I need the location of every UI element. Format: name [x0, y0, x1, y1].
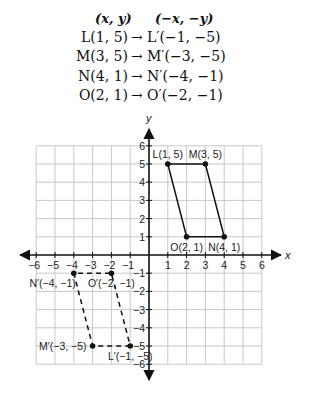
vertex-label: M′(−3, −5) — [39, 340, 87, 352]
y-tick-label: 3 — [139, 194, 145, 206]
vertex-label: M(3, 5) — [189, 148, 222, 160]
x-tick-label: 2 — [184, 259, 190, 271]
vertex-point — [221, 234, 227, 240]
vertex-point — [90, 343, 96, 349]
x-tick-label: −2 — [103, 259, 115, 271]
y-tick-label: 4 — [139, 176, 145, 188]
y-tick-label: 6 — [139, 140, 145, 152]
y-tick-label: 5 — [139, 158, 145, 170]
vertex-point — [127, 343, 133, 349]
x-tick-label: 1 — [165, 259, 171, 271]
y-tick-label: −3 — [133, 304, 145, 316]
y-tick-label: 2 — [139, 213, 145, 225]
vertex-label: N′(−4, −1) — [29, 277, 75, 289]
x-tick-label: −4 — [66, 259, 78, 271]
coordinate-plane: −6−5−4−3−2−1123456−6−5−4−3−2−1123456 L(1… — [0, 0, 309, 393]
vertex-point — [165, 161, 171, 167]
x-axis-label: x — [284, 249, 291, 261]
vertex-point — [203, 161, 209, 167]
x-tick-label: 6 — [259, 259, 265, 271]
x-tick-label: −6 — [28, 259, 40, 271]
vertex-label: L(1, 5) — [153, 148, 183, 160]
y-tick-label: 1 — [139, 231, 145, 243]
vertex-point — [184, 234, 190, 240]
y-tick-label: −4 — [133, 322, 145, 334]
x-tick-label: 3 — [202, 259, 208, 271]
x-tick-label: 4 — [221, 259, 227, 271]
y-axis-label: y — [145, 112, 153, 124]
x-tick-label: 5 — [240, 259, 246, 271]
vertex-label: N(4, 1) — [208, 241, 240, 253]
x-tick-label: −5 — [47, 259, 59, 271]
vertex-point — [71, 270, 77, 276]
vertex-label: L′(−1, −5) — [108, 350, 153, 362]
vertex-label: O′(−2, −1) — [88, 277, 135, 289]
vertex-label: O(2, 1) — [170, 241, 203, 253]
vertex-point — [109, 270, 115, 276]
x-tick-label: −3 — [85, 259, 97, 271]
